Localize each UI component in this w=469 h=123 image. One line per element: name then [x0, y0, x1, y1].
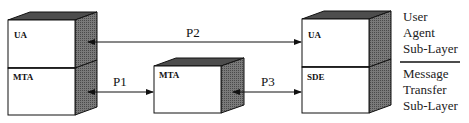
right-sde-label: SDE [307, 72, 325, 82]
legend-line: User [403, 9, 458, 25]
right-ua-label: UA [308, 30, 321, 40]
legend-line: Transfer [403, 82, 458, 98]
middle-mta-node: MTA [154, 58, 244, 113]
legend-line: Message [403, 66, 458, 82]
left-mta-label: MTA [13, 72, 34, 82]
left-ua-label: UA [14, 30, 27, 40]
middle-mta-label: MTA [159, 70, 180, 80]
legend-user-agent-sublayer: User Agent Sub-Layer [403, 9, 458, 57]
legend-line: Sub-Layer [403, 98, 458, 114]
legend-line: Sub-Layer [403, 41, 458, 57]
legend-message-transfer-sublayer: Message Transfer Sub-Layer [403, 66, 458, 114]
legend-line: Agent [403, 25, 458, 41]
p2-label: P2 [186, 25, 200, 40]
right-ua-box [302, 19, 369, 67]
right-stack: UA SDE [302, 11, 391, 113]
left-ua-box [8, 20, 75, 68]
p1-label: P1 [113, 74, 127, 89]
p3-label: P3 [261, 74, 275, 89]
diagram-canvas: UA MTA MTA UA SDE P2 P1 P3 [0, 0, 469, 123]
left-stack: UA MTA [8, 12, 97, 115]
